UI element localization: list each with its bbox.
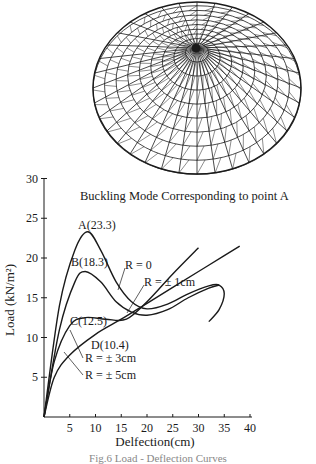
svg-text:10: 10	[26, 331, 38, 345]
y-axis-label: Load (kN/m²)	[2, 264, 17, 336]
annotation-A: A(23.3)	[78, 218, 116, 232]
label-r1: R = ± 1cm	[144, 275, 196, 289]
figure-caption: Fig.6 Load - Deflection Curves	[0, 452, 316, 464]
curve-r-1cm	[44, 272, 219, 417]
svg-text:20: 20	[26, 251, 38, 265]
annotation-B: B(18.3)	[71, 255, 108, 269]
svg-text:30: 30	[193, 421, 205, 435]
label-r0: R = 0	[125, 258, 152, 272]
svg-text:5: 5	[67, 421, 73, 435]
svg-text:5: 5	[32, 370, 38, 384]
x-axis-label: Delfection(cm)	[115, 434, 194, 449]
svg-text:15: 15	[115, 421, 127, 435]
dome-mesh-illustration	[93, 2, 301, 174]
label-r5: R = ± 5cm	[85, 368, 137, 382]
subtitle: Buckling Mode Corresponding to point A	[80, 189, 289, 203]
y-tick-labels: 51015202530	[26, 172, 38, 385]
svg-text:10: 10	[90, 421, 102, 435]
annotation-D: D(10.4)	[91, 338, 129, 352]
label-r3: R = ± 3cm	[85, 351, 137, 365]
svg-text:30: 30	[26, 172, 38, 186]
axes	[41, 178, 252, 417]
svg-text:40: 40	[244, 421, 256, 435]
svg-text:25: 25	[167, 421, 179, 435]
x-tick-labels: 510152025303540	[67, 421, 256, 435]
svg-text:35: 35	[218, 421, 230, 435]
svg-text:15: 15	[26, 291, 38, 305]
annotation-C: C(12.5)	[70, 314, 107, 328]
svg-text:25: 25	[26, 211, 38, 225]
svg-text:20: 20	[141, 421, 153, 435]
